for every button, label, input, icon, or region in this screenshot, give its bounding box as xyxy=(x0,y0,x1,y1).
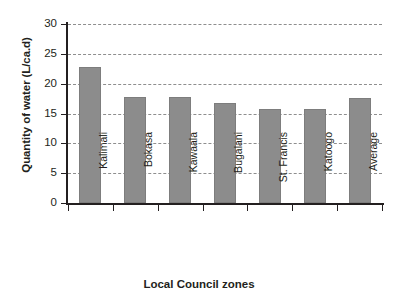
gridline xyxy=(68,54,382,55)
x-axis-tick xyxy=(113,205,114,211)
x-axis-tick xyxy=(382,205,383,211)
bar-chart-figure: Quantity of water (L/ca.d) 051015202530 … xyxy=(0,0,398,305)
x-axis-tick xyxy=(337,205,338,211)
y-axis-tick-label: 30 xyxy=(17,18,57,30)
x-axis-title: Local Council zones xyxy=(0,278,398,290)
y-axis-line xyxy=(66,22,68,205)
gridline xyxy=(68,24,382,25)
x-axis-tick-label: Katoogo xyxy=(321,132,335,212)
y-axis-tick-label: 20 xyxy=(17,78,57,90)
x-axis-tick-label: Kalimali xyxy=(96,132,110,212)
y-axis-tick-label: 10 xyxy=(17,137,57,149)
x-axis-tick-label: St. Francis xyxy=(276,132,290,212)
y-axis-tick-label: 15 xyxy=(17,108,57,120)
x-axis-tick xyxy=(292,205,293,211)
y-axis-tick-label: 25 xyxy=(17,48,57,60)
x-axis-tick-label: Bugalani xyxy=(231,132,245,212)
x-axis-tick-label: Average xyxy=(366,132,380,212)
x-axis-tick xyxy=(247,205,248,211)
x-axis-tick-label: Bokasa xyxy=(141,132,155,212)
x-axis-tick xyxy=(68,205,69,211)
gridline xyxy=(68,84,382,85)
x-axis-tick-label: Kawaala xyxy=(186,132,200,212)
y-axis-tick-label: 5 xyxy=(17,167,57,179)
x-axis-tick xyxy=(158,205,159,211)
y-axis-tick-label: 0 xyxy=(17,197,57,209)
x-axis-tick xyxy=(203,205,204,211)
